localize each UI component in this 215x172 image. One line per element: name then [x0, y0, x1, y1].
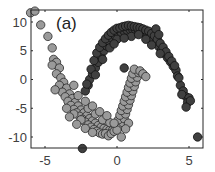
- data-point: [73, 120, 81, 128]
- data-point: [117, 133, 125, 141]
- data-point: [31, 7, 39, 15]
- data-point: [98, 55, 106, 63]
- data-point: [81, 97, 89, 105]
- x-tick-label: -5: [39, 153, 51, 168]
- data-point: [37, 21, 45, 29]
- data-point: [51, 86, 59, 94]
- data-point: [120, 64, 128, 72]
- data-point: [65, 113, 73, 121]
- data-point: [182, 103, 190, 111]
- data-point: [44, 32, 52, 40]
- data-point: [121, 125, 129, 133]
- data-point: [110, 119, 118, 127]
- y-tick-label: 10: [13, 15, 27, 30]
- x-tick-label: 0: [113, 153, 120, 168]
- data-point: [110, 40, 118, 48]
- data-point: [147, 41, 155, 49]
- data-point: [91, 71, 99, 79]
- y-tick-label: -10: [8, 130, 27, 145]
- data-point: [156, 49, 164, 57]
- data-point: [142, 72, 150, 80]
- x-tick-label: 5: [185, 153, 192, 168]
- panel-label: (a): [56, 14, 77, 33]
- y-tick-label: -5: [15, 101, 27, 116]
- data-point: [175, 74, 183, 82]
- data-point: [88, 128, 96, 136]
- data-point: [62, 104, 70, 112]
- y-tick-label: 5: [20, 43, 27, 58]
- data-point: [170, 61, 178, 69]
- data-point: [70, 81, 78, 89]
- data-point: [88, 102, 96, 110]
- data-point: [48, 44, 56, 52]
- data-point: [134, 30, 142, 38]
- scatter-chart: -505 -10-50510 (a): [0, 0, 215, 172]
- data-point: [120, 34, 128, 42]
- y-tick-label: 0: [20, 72, 27, 87]
- data-point: [83, 80, 91, 88]
- data-point: [155, 30, 163, 38]
- data-point: [103, 112, 111, 120]
- data-point: [193, 133, 201, 141]
